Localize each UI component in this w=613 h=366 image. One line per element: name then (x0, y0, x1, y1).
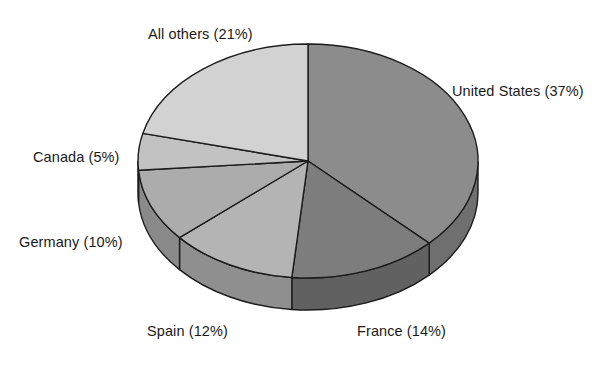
pie-chart-figure: All others (21%) United States (37%) Can… (0, 0, 613, 366)
pie-chart-graphic (0, 0, 613, 366)
pie-label-france: France (14%) (357, 323, 446, 339)
pie-label-canada: Canada (5%) (33, 149, 120, 165)
pie-label-united-states: United States (37%) (452, 83, 584, 99)
pie-label-spain: Spain (12%) (147, 323, 228, 339)
pie-label-germany: Germany (10%) (19, 234, 123, 250)
pie-label-all-others: All others (21%) (148, 26, 253, 42)
pie-top-faces (138, 44, 478, 278)
